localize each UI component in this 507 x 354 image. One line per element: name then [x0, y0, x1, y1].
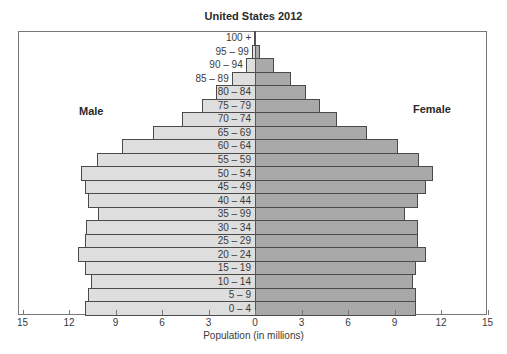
- age-group-label: 70 – 74: [218, 112, 251, 125]
- age-group-label: 30 – 34: [218, 221, 251, 234]
- x-tick-label: 12: [54, 317, 84, 328]
- age-group-label: 45 – 49: [218, 180, 251, 193]
- x-tick: [116, 310, 117, 315]
- x-tick: [488, 310, 489, 315]
- center-line: [255, 31, 256, 315]
- female-bar: [255, 274, 413, 289]
- x-tick: [348, 310, 349, 315]
- female-bar: [255, 247, 426, 262]
- age-group-label: 40 – 44: [218, 194, 251, 207]
- age-group-label: 80 – 84: [218, 85, 251, 98]
- female-bar: [255, 193, 418, 208]
- age-group-label: 95 – 99: [216, 45, 249, 58]
- x-tick-label: 3: [287, 317, 317, 328]
- x-axis-label: Population (in millions): [0, 330, 507, 341]
- female-bar: [255, 139, 398, 154]
- x-tick-label: 3: [194, 317, 224, 328]
- female-bar: [255, 166, 433, 181]
- x-tick: [255, 310, 256, 315]
- age-group-label: 0 – 4: [229, 302, 251, 315]
- age-group-label: 10 – 14: [218, 275, 251, 288]
- x-tick: [23, 310, 24, 315]
- female-bar: [255, 72, 291, 87]
- x-tick-label: 15: [473, 317, 503, 328]
- female-bar: [255, 153, 419, 168]
- x-tick: [441, 310, 442, 315]
- age-group-label: 20 – 24: [218, 248, 251, 261]
- age-group-label: 5 – 9: [229, 288, 251, 301]
- female-bar: [255, 99, 320, 114]
- female-bar: [255, 288, 416, 303]
- age-group-label: 50 – 54: [218, 167, 251, 180]
- x-tick-label: 9: [101, 317, 131, 328]
- age-group-label: 60 – 64: [218, 139, 251, 152]
- female-bar: [255, 301, 416, 316]
- chart-title: United States 2012: [0, 10, 507, 22]
- age-group-label: 25 – 29: [218, 234, 251, 247]
- x-tick-label: 0: [240, 317, 270, 328]
- female-bar: [255, 126, 367, 141]
- age-group-label: 85 – 89: [195, 72, 228, 85]
- male-bar: [232, 72, 255, 87]
- female-bar: [255, 180, 426, 195]
- female-bar: [255, 261, 416, 276]
- female-bar: [255, 207, 405, 222]
- x-tick: [209, 310, 210, 315]
- female-bar: [255, 234, 418, 249]
- age-group-label: 55 – 59: [218, 153, 251, 166]
- female-bar: [255, 58, 274, 73]
- x-tick: [162, 310, 163, 315]
- age-group-label: 15 – 19: [218, 261, 251, 274]
- age-group-label: 65 – 69: [218, 126, 251, 139]
- female-bar: [255, 112, 337, 127]
- age-group-label: 100 +: [226, 31, 251, 44]
- x-tick-label: 15: [8, 317, 38, 328]
- female-label: Female: [413, 103, 451, 115]
- age-group-label: 90 – 94: [209, 58, 242, 71]
- x-tick: [302, 310, 303, 315]
- female-bar: [255, 85, 306, 100]
- female-bar: [255, 45, 260, 60]
- x-tick-label: 6: [333, 317, 363, 328]
- x-tick: [395, 310, 396, 315]
- male-label: Male: [79, 105, 103, 117]
- female-bar: [255, 220, 418, 235]
- age-group-label: 75 – 79: [218, 99, 251, 112]
- x-tick-label: 6: [147, 317, 177, 328]
- x-tick: [69, 310, 70, 315]
- x-tick-label: 9: [380, 317, 410, 328]
- x-tick-label: 12: [426, 317, 456, 328]
- age-group-label: 35 – 99: [218, 207, 251, 220]
